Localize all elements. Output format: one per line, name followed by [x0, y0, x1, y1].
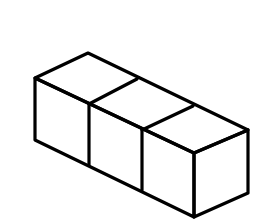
- front-face: [35, 78, 194, 217]
- top-divider-2: [142, 106, 193, 130]
- three-cubes-drawing: [0, 0, 270, 224]
- top-divider-1: [89, 79, 137, 104]
- right-face: [194, 130, 248, 217]
